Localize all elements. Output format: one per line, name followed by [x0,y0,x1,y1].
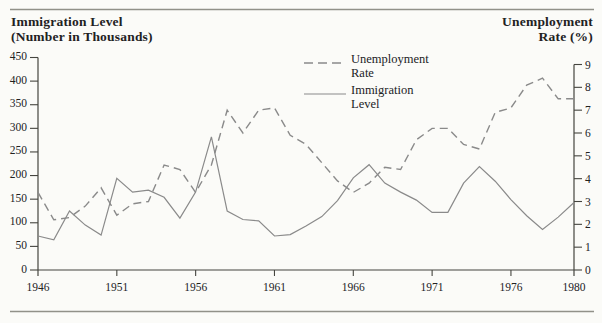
x-axis-tick-label: 1961 [263,281,286,293]
right-axis-tick-label: 9 [585,59,591,71]
legend-label-immigration-line2: Level [351,97,414,111]
right-axis-tick-label: 6 [585,127,591,139]
legend-item-immigration: Immigration Level [303,83,429,111]
right-axis-tick-label: 1 [585,241,591,253]
x-axis-tick-label: 1966 [342,281,365,293]
left-axis-tick-label: 100 [10,215,28,227]
left-axis-tick-label: 0 [21,263,27,275]
right-axis-title: Unemployment Rate (%) [502,14,593,44]
left-axis-tick-label: 400 [10,74,28,86]
right-axis-tick-label: 5 [585,150,591,162]
right-axis-tick-label: 8 [585,81,591,93]
left-axis-tick-label: 250 [10,144,28,156]
legend-item-unemployment: Unemployment Rate [303,52,429,80]
left-axis-title-line2: (Number in Thousands) [11,29,153,44]
right-axis-tick-label: 3 [585,196,591,208]
legend-label-immigration: Immigration Level [351,83,414,111]
left-axis-tick-label: 200 [10,168,28,180]
right-axis-title-line2: Rate (%) [502,29,593,44]
left-axis-tick-label: 50 [16,239,28,251]
right-axis-title-line1: Unemployment [502,14,593,29]
legend-label-immigration-line1: Immigration [351,83,414,97]
left-axis-tick-label: 300 [10,121,28,133]
left-axis-title: Immigration Level (Number in Thousands) [11,14,153,44]
x-axis-tick-label: 1971 [421,281,444,293]
right-axis-tick-label: 0 [585,264,591,276]
x-axis-tick-label: 1980 [563,281,586,293]
legend-label-unemployment-line1: Unemployment [351,52,429,66]
left-axis-tick-label: 350 [10,97,28,109]
left-axis-title-line1: Immigration Level [11,14,153,29]
immigration-level-line [38,137,574,240]
right-axis-tick-label: 4 [585,173,591,185]
dashed-line-sample-icon [303,52,347,69]
legend-label-unemployment: Unemployment Rate [351,52,429,80]
plot-area: 0501001502002503003504004500123456789194… [0,0,602,323]
solid-line-sample-icon [303,83,347,100]
legend: Unemployment Rate Immigration Level [303,52,429,114]
right-axis-tick-label: 2 [585,218,591,230]
x-axis-tick-label: 1946 [27,281,50,293]
x-axis-tick-label: 1976 [499,281,522,293]
x-axis-tick-label: 1956 [184,281,207,293]
legend-label-unemployment-line2: Rate [351,66,429,80]
left-axis-tick-label: 450 [10,50,28,62]
left-axis-tick-label: 150 [10,192,28,204]
right-axis-tick-label: 7 [585,104,591,116]
x-axis-tick-label: 1951 [105,281,128,293]
chart-canvas: 0501001502002503003504004500123456789194… [0,0,602,323]
